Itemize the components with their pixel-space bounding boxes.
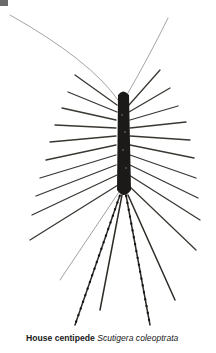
centipede-body — [117, 92, 131, 196]
scientific-name: Scutigera coleoptrata — [97, 333, 178, 343]
legs-right — [128, 70, 200, 250]
centipede-photo — [0, 0, 216, 330]
common-name: House centipede — [26, 333, 95, 343]
figure-caption: House centipede Scutigera coleoptrata — [26, 333, 178, 343]
legs-left — [30, 75, 118, 240]
rear-legs — [60, 192, 175, 325]
